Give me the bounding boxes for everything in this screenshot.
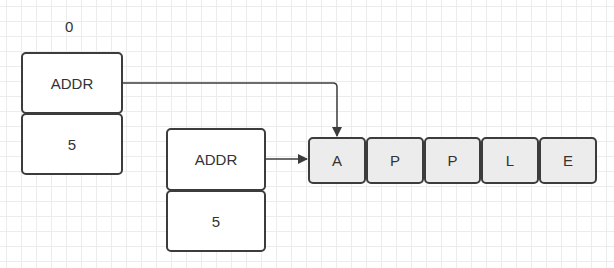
array-cell-4: E xyxy=(539,137,597,184)
array-char: P xyxy=(447,152,457,169)
pointer-b-addr-text: ADDR xyxy=(195,151,238,168)
array-char: L xyxy=(506,152,514,169)
array-cell-3: L xyxy=(481,137,539,184)
pointer-a-length-text: 5 xyxy=(68,136,76,153)
pointer-b-length-text: 5 xyxy=(212,213,220,230)
array-char: A xyxy=(332,152,342,169)
array-char: P xyxy=(390,152,400,169)
pointer-b-addr-cell: ADDR xyxy=(166,128,266,191)
index-label: 0 xyxy=(65,18,73,35)
array-cell-1: P xyxy=(366,137,424,184)
array-cell-0: A xyxy=(308,137,366,184)
array-cell-2: P xyxy=(424,137,481,184)
pointer-a-addr-text: ADDR xyxy=(51,75,94,92)
pointer-b-length-cell: 5 xyxy=(166,190,266,252)
array-char: E xyxy=(563,152,573,169)
pointer-a-addr-cell: ADDR xyxy=(21,52,123,114)
pointer-a-length-cell: 5 xyxy=(21,113,123,175)
